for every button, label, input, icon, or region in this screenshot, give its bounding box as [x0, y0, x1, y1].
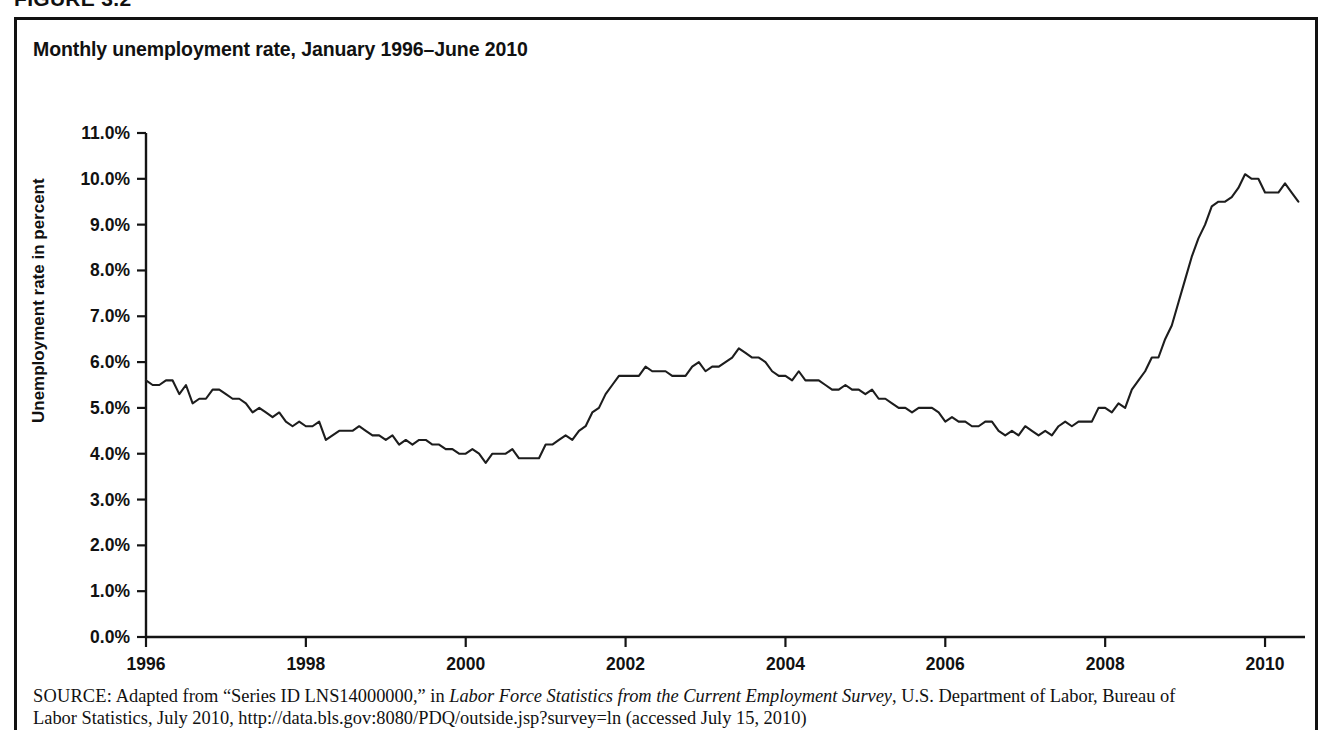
chart-plot-area: Unemployment rate in percent 0.0%1.0%2.0…: [0, 0, 1335, 730]
y-tick-label: 1.0%: [90, 581, 130, 601]
x-tick-label: 2002: [606, 654, 645, 674]
y-axis-ticks: 0.0%1.0%2.0%3.0%4.0%5.0%6.0%7.0%8.0%9.0%…: [80, 123, 146, 647]
source-publication-title: Labor Force Statistics from the Current …: [449, 686, 892, 706]
y-tick-label: 3.0%: [90, 490, 130, 510]
x-tick-label: 2000: [446, 654, 485, 674]
x-tick-label: 1996: [127, 654, 166, 674]
y-tick-label: 7.0%: [90, 306, 130, 326]
line-chart-svg: Unemployment rate in percent 0.0%1.0%2.0…: [0, 0, 1335, 730]
source-label: SOURCE:: [33, 686, 112, 706]
x-axis-ticks: 19961998200020022004200620082010: [127, 637, 1285, 674]
y-tick-label: 2.0%: [90, 535, 130, 555]
y-tick-label: 10.0%: [80, 169, 130, 189]
y-tick-label: 5.0%: [90, 398, 130, 418]
source-line2: Labor Statistics, July 2010, http://data…: [33, 707, 1305, 729]
y-tick-label: 8.0%: [90, 260, 130, 280]
source-note: SOURCE: Adapted from “Series ID LNS14000…: [33, 685, 1305, 729]
x-tick-label: 2004: [766, 654, 805, 674]
y-tick-label: 4.0%: [90, 444, 130, 464]
unemployment-rate-line: [146, 174, 1298, 463]
y-axis-title: Unemployment rate in percent: [29, 178, 48, 423]
y-tick-label: 9.0%: [90, 215, 130, 235]
y-tick-label: 0.0%: [90, 627, 130, 647]
x-tick-label: 2010: [1246, 654, 1285, 674]
source-line1-part1: Adapted from “Series ID LNS14000000,” in: [112, 686, 449, 706]
x-tick-label: 1998: [286, 654, 325, 674]
source-line1-part2: , U.S. Department of Labor, Bureau of: [892, 686, 1175, 706]
y-tick-label: 6.0%: [90, 352, 130, 372]
x-tick-label: 2008: [1086, 654, 1125, 674]
y-axis-title-group: Unemployment rate in percent: [29, 178, 48, 423]
y-tick-label: 11.0%: [81, 123, 130, 143]
x-tick-label: 2006: [926, 654, 965, 674]
